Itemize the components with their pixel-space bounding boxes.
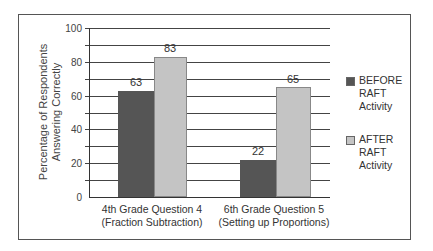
value-label: 22	[240, 145, 276, 157]
y-tick-label: 40	[52, 124, 82, 135]
legend-line: Activity	[359, 159, 419, 172]
bar-after-cat1	[154, 57, 187, 197]
y-tick-label: 60	[52, 90, 82, 101]
plot-area: 100 80 60 40 20 0 63 83 22 65 4th Grade …	[89, 28, 330, 197]
bar-before-cat1	[118, 91, 154, 198]
bar-after-cat2	[276, 87, 311, 197]
category-line: (Setting up Proportions)	[209, 216, 339, 229]
gridline	[85, 62, 330, 63]
y-tick-label: 100	[52, 23, 82, 34]
value-label: 65	[275, 73, 311, 85]
legend-line: RAFT	[359, 87, 419, 100]
y-tick-label: 0	[52, 192, 82, 203]
legend-line: RAFT	[359, 146, 419, 159]
category-line: 6th Grade Question 5	[209, 203, 339, 216]
x-axis	[89, 197, 330, 198]
bar-before-cat2	[240, 160, 276, 197]
x-category-label: 4th Grade Question 4 (Fraction Subtracti…	[87, 203, 217, 229]
gridline	[85, 45, 330, 46]
x-category-label: 6th Grade Question 5 (Setting up Proport…	[209, 203, 339, 229]
legend-swatch-after	[346, 136, 355, 145]
legend-line: Activity	[359, 100, 419, 113]
legend-swatch-before	[346, 77, 355, 86]
value-label: 63	[118, 76, 154, 88]
legend-line: BEFORE	[359, 74, 419, 87]
value-label: 83	[152, 42, 188, 54]
gridline	[85, 28, 330, 29]
legend-label: BEFORE RAFT Activity	[359, 74, 419, 113]
y-tick-label: 80	[52, 56, 82, 67]
y-axis-label-line-1: Percentage of Respondents	[37, 44, 50, 180]
legend-label: AFTER RAFT Activity	[359, 133, 419, 172]
y-axis	[89, 28, 90, 198]
category-line: (Fraction Subtraction)	[87, 216, 217, 229]
y-tick-label: 20	[52, 158, 82, 169]
legend-line: AFTER	[359, 133, 419, 146]
category-line: 4th Grade Question 4	[87, 203, 217, 216]
